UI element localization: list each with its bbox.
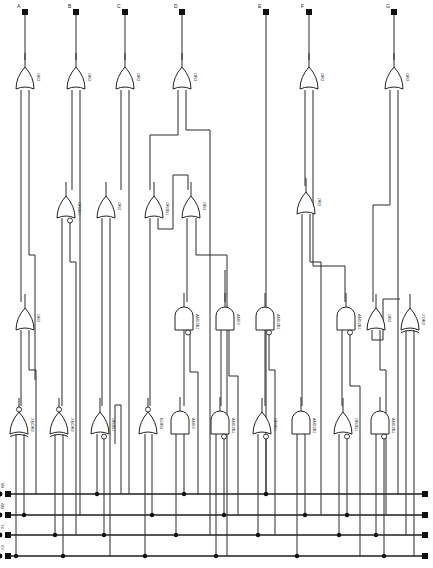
output-pins: ABCDEFG — [17, 3, 397, 15]
gate-label: OR2 — [36, 73, 41, 82]
junction-dot — [102, 533, 106, 537]
output-label: C — [117, 3, 121, 9]
output-pin-f[interactable]: F — [301, 3, 312, 15]
input-label: W2 — [0, 502, 5, 509]
gate-and2b1[interactable]: AND2B1 — [371, 397, 396, 439]
gate-or2[interactable]: OR2 — [16, 53, 41, 89]
output-pin-b[interactable]: B — [68, 3, 79, 15]
gate-label: OR2B1 — [165, 202, 170, 216]
gate-label: AND2B1 — [357, 314, 362, 330]
junction-dot — [303, 513, 307, 517]
junction-dot — [0, 533, 2, 537]
gate-label: OR2 — [405, 73, 410, 82]
inversion-bubble — [102, 434, 107, 439]
gate-label: OR2 — [202, 202, 207, 211]
junction-dot — [22, 513, 26, 517]
junction-dot — [14, 554, 18, 558]
junction-dot — [0, 513, 2, 517]
junction-dot — [295, 554, 299, 558]
inversion-bubble — [186, 330, 191, 335]
gate-or2b1[interactable]: OR2B1 — [145, 182, 170, 218]
gate-xor2[interactable]: XOR2 — [401, 294, 426, 333]
gate-label: OR2 — [320, 73, 325, 82]
output-terminal[interactable] — [422, 532, 428, 538]
input-bus: W1W2X1X2 — [0, 481, 428, 559]
inversion-bubble — [222, 434, 227, 439]
output-terminal[interactable] — [422, 553, 428, 559]
junction-dot — [143, 554, 147, 558]
output-pin-e[interactable]: E — [258, 3, 269, 15]
junction-dot — [337, 533, 341, 537]
wires — [0, 14, 414, 558]
output-label: B — [68, 3, 72, 9]
input-label: X1 — [0, 523, 5, 529]
input-pin[interactable] — [5, 532, 11, 538]
wire — [313, 90, 345, 302]
output-pin-c[interactable]: C — [117, 3, 128, 15]
output-terminal[interactable] — [422, 491, 428, 497]
gate-label: AND2B1 — [231, 418, 236, 434]
gate-label: AND2B1 — [312, 418, 317, 434]
inversion-bubble — [68, 218, 73, 223]
junction-dot — [0, 492, 2, 496]
gate-or2[interactable]: OR2 — [16, 294, 41, 330]
output-pin-a[interactable]: A — [17, 3, 28, 15]
gate-and2b1[interactable]: AND2B1 — [256, 293, 281, 335]
output-label: G — [386, 3, 390, 9]
output-label: E — [258, 3, 262, 9]
junction-dot — [95, 492, 99, 496]
gate-label: AND2B1 — [195, 314, 200, 330]
gate-label: OR2 — [136, 73, 141, 82]
gate-or2b1[interactable]: OR2B1 — [57, 182, 82, 223]
output-label: F — [301, 3, 304, 9]
schematic-canvas: W1W2X1X2 OR2OR2OR2OR3OR2OR2OR2B1OR2OR2B1… — [0, 0, 433, 568]
input-label: X2 — [0, 544, 5, 550]
gate-or2[interactable]: OR2 — [182, 182, 207, 218]
gate-and2[interactable]: AND2 — [216, 293, 241, 330]
gate-label: OR2B1 — [111, 418, 116, 432]
gate-and2b1[interactable]: AND2B1 — [211, 397, 236, 439]
gate-xnor2[interactable]: XNOR2 — [10, 398, 35, 437]
wire — [70, 218, 76, 535]
gate-or2b1[interactable]: OR2B1 — [91, 398, 116, 439]
gate-or3[interactable]: OR3 — [173, 53, 198, 89]
inversion-bubble — [267, 330, 272, 335]
gate-or2[interactable]: OR2 — [300, 53, 325, 89]
inversion-bubble — [17, 407, 22, 412]
gate-label: AND2B1 — [276, 314, 281, 330]
gate-or2[interactable]: OR2 — [297, 178, 322, 214]
gate-label: OR2 — [117, 202, 122, 211]
input-bus-line-w2: W2 — [0, 502, 428, 518]
gate-or2b1[interactable]: OR2B1 — [334, 398, 359, 439]
gate-and2b1[interactable]: AND2B1 — [292, 397, 317, 434]
input-pin[interactable] — [5, 512, 11, 518]
wire — [158, 175, 188, 229]
gate-or2[interactable]: OR2 — [67, 53, 92, 89]
junction-dot — [256, 533, 260, 537]
gate-and2b1[interactable]: AND2B1 — [337, 293, 362, 335]
output-terminal[interactable] — [422, 512, 428, 518]
gate-nor2[interactable]: NOR2 — [139, 398, 164, 434]
junction-dot — [150, 513, 154, 517]
input-pin[interactable] — [5, 553, 11, 559]
input-pin[interactable] — [5, 491, 11, 497]
input-bus-line-w1: W1 — [0, 481, 428, 497]
junction-dot — [61, 554, 65, 558]
gate-label: OR2B1 — [77, 202, 82, 216]
output-label: A — [17, 3, 21, 9]
junction-dot — [174, 533, 178, 537]
junction-dot — [182, 492, 186, 496]
gate-label: OR2B1 — [354, 418, 359, 432]
gate-label: NOR2 — [159, 418, 164, 430]
output-pin-d[interactable]: D — [174, 3, 185, 15]
wire — [196, 218, 227, 556]
gate-or2[interactable]: OR2 — [97, 182, 122, 218]
gate-or2[interactable]: OR2 — [116, 53, 141, 89]
output-label: D — [174, 3, 178, 9]
gate-or2[interactable]: OR2 — [385, 53, 410, 89]
output-pin-g[interactable]: G — [386, 3, 397, 15]
gate-label: XNOR2 — [30, 418, 35, 433]
gate-label: OR2 — [87, 73, 92, 82]
gate-label: AND2B1 — [391, 418, 396, 434]
junction-dot — [374, 533, 378, 537]
